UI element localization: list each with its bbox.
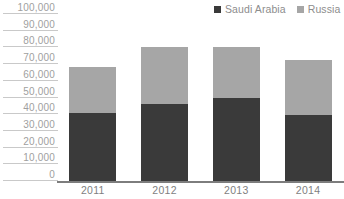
- bar-group: 2013: [213, 0, 260, 181]
- x-axis-line: [57, 181, 344, 183]
- plot-area: 100,00090,00080,00070,00060,00050,00040,…: [0, 0, 344, 199]
- y-axis-tick-label: 40,000: [23, 102, 55, 113]
- y-axis-tick-label: 100,000: [17, 2, 55, 13]
- y-axis-tick-rule: [3, 113, 58, 114]
- y-axis-tick-label: 10,000: [23, 152, 55, 163]
- bar-segment-saudi-arabia[interactable]: [285, 115, 332, 181]
- stacked-bar-chart: Saudi Arabia Russia 100,00090,00080,0007…: [0, 0, 344, 199]
- y-axis-tick-rule: [3, 13, 58, 14]
- bar-segment-russia[interactable]: [213, 47, 260, 98]
- y-axis-tick-rule: [3, 46, 58, 47]
- bar-segment-russia[interactable]: [141, 47, 188, 104]
- bar-segment-saudi-arabia[interactable]: [69, 113, 116, 181]
- y-axis-tick-label: 80,000: [23, 35, 55, 46]
- y-axis-tick-label: 50,000: [23, 86, 55, 97]
- y-axis-tick-rule: [3, 80, 58, 81]
- y-axis-tick-rule: [3, 97, 58, 98]
- y-axis-tick-rule: [3, 63, 58, 64]
- y-axis-tick-label: 60,000: [23, 69, 55, 80]
- bar-group: 2012: [141, 0, 188, 181]
- y-axis-tick-label: 70,000: [23, 52, 55, 63]
- y-axis-tick-label: 30,000: [23, 119, 55, 130]
- y-axis-tick-label: 90,000: [23, 19, 55, 30]
- x-axis-label-2014: 2014: [265, 184, 344, 196]
- y-axis-tick-rule: [3, 30, 58, 31]
- bar-segment-russia[interactable]: [69, 67, 116, 114]
- bar-segment-saudi-arabia[interactable]: [213, 98, 260, 181]
- bar-group: 2014: [285, 0, 332, 181]
- bar-segment-russia[interactable]: [285, 60, 332, 115]
- y-axis-tick-rule: [3, 180, 58, 181]
- y-axis-tick-rule: [3, 163, 58, 164]
- bar-group: 2011: [69, 0, 116, 181]
- bar-segment-saudi-arabia[interactable]: [141, 104, 188, 181]
- y-axis-tick-rule: [3, 147, 58, 148]
- y-axis-tick-rule: [3, 130, 58, 131]
- y-axis-tick-label: 0: [49, 169, 55, 180]
- y-axis-tick-label: 20,000: [23, 136, 55, 147]
